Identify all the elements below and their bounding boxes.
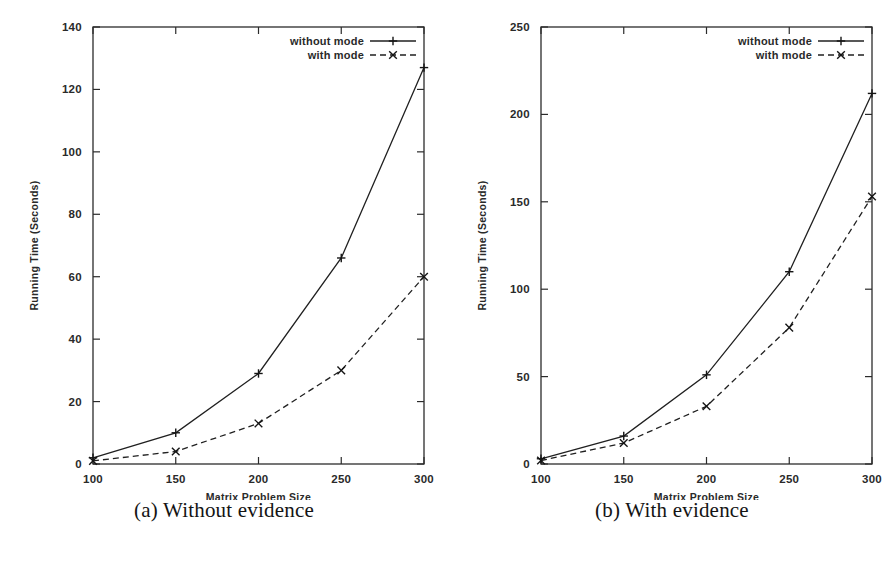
x-axis-tick-label: 100 (531, 473, 551, 485)
series-line (541, 197, 872, 461)
x-axis-tick-label: 200 (248, 473, 268, 485)
y-axis-tick-label: 120 (62, 83, 82, 95)
legend-label: without mode (737, 35, 812, 47)
chart-panel-a: 020406080100120140100150200250300Matrix … (0, 0, 448, 566)
chart-b-svg: 050100150200250100150200250300Matrix Pro… (448, 0, 896, 500)
plot-frame (93, 27, 424, 464)
y-axis-tick-label: 0 (523, 458, 530, 470)
y-axis-tick-label: 20 (69, 396, 82, 408)
series-without-mode (89, 63, 428, 462)
x-axis-tick-label: 150 (614, 473, 634, 485)
y-axis-tick-label: 100 (62, 146, 82, 158)
x-axis-tick-label: 300 (414, 473, 434, 485)
x-axis-tick-label: 250 (331, 473, 351, 485)
x-axis-tick-label: 100 (83, 473, 103, 485)
series-line (93, 277, 424, 461)
plot-frame (541, 27, 872, 464)
figure-container: 020406080100120140100150200250300Matrix … (0, 0, 896, 566)
y-axis-title: Running Time (Seconds) (28, 180, 40, 310)
chart-panel-b: 050100150200250100150200250300Matrix Pro… (448, 0, 896, 566)
chart-b-caption: (b) With evidence (448, 498, 896, 523)
x-axis-tick-label: 150 (166, 473, 186, 485)
series-with-mode (89, 273, 428, 465)
series-line (93, 68, 424, 458)
legend-label: with mode (307, 49, 364, 61)
y-axis-tick-label: 200 (510, 108, 530, 120)
chart-a-svg: 020406080100120140100150200250300Matrix … (0, 0, 448, 500)
y-axis-tick-label: 150 (510, 196, 530, 208)
x-axis-tick-label: 250 (779, 473, 799, 485)
legend-label: with mode (755, 49, 812, 61)
legend-sample-marker (837, 37, 845, 45)
y-axis-tick-label: 80 (69, 208, 82, 220)
y-axis-tick-label: 40 (69, 333, 82, 345)
y-axis-tick-label: 140 (62, 21, 82, 33)
y-axis-tick-label: 250 (510, 21, 530, 33)
legend-sample-marker (389, 37, 397, 45)
y-axis-tick-label: 50 (517, 371, 530, 383)
chart-a-caption: (a) Without evidence (0, 498, 448, 523)
series-with-mode (537, 193, 876, 465)
y-axis-tick-label: 0 (75, 458, 82, 470)
legend-label: without mode (289, 35, 364, 47)
y-axis-tick-label: 100 (510, 283, 530, 295)
y-axis-tick-label: 60 (69, 271, 82, 283)
x-axis-tick-label: 200 (696, 473, 716, 485)
y-axis-title: Running Time (Seconds) (476, 180, 488, 310)
x-axis-tick-label: 300 (862, 473, 882, 485)
